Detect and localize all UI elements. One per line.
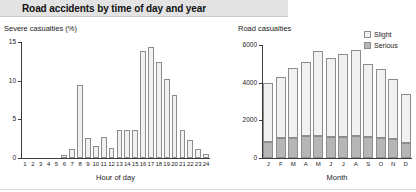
right-y-tick-label: 0	[234, 154, 257, 161]
bar-segment-slight	[301, 62, 311, 136]
bar-segment-slight	[401, 94, 411, 143]
bar-segment-slight	[276, 77, 286, 138]
right-x-tick-label: J	[337, 161, 350, 167]
right-x-tick-label: J	[325, 161, 338, 167]
bar-segment-slight	[376, 69, 386, 138]
left-y-tick	[18, 42, 21, 43]
right-chart-title: Road casualties	[238, 24, 291, 33]
bar-segment-serious	[263, 142, 273, 158]
left-y-tick	[18, 119, 21, 120]
bar-severe-casualties	[180, 130, 186, 158]
bar-severe-casualties	[156, 62, 162, 158]
bar-segment-serious	[313, 136, 323, 158]
bar-segment-slight	[351, 50, 361, 136]
bar-severe-casualties	[148, 47, 154, 158]
legend-item-serious: Serious	[364, 42, 398, 49]
right-y-tick	[259, 45, 262, 46]
left-y-tick-label: 15	[0, 38, 16, 45]
bar-severe-casualties	[140, 51, 146, 158]
left-x-tick-label: 24	[200, 161, 212, 167]
right-x-tick-label: N	[387, 161, 400, 167]
bar-segment-serious	[326, 137, 336, 158]
right-x-tick-label: O	[375, 161, 388, 167]
bar-severe-casualties	[61, 155, 67, 158]
legend-label-slight: Slight	[374, 31, 392, 38]
left-chart-title: Severe casualties (%)	[4, 24, 77, 33]
bar-severe-casualties	[132, 130, 138, 158]
bar-segment-slight	[313, 51, 323, 136]
bar-severe-casualties	[117, 130, 123, 158]
left-y-tick-label: 10	[0, 77, 16, 84]
bar-segment-slight	[363, 64, 373, 137]
bar-severe-casualties	[101, 137, 107, 158]
bar-segment-slight	[326, 58, 336, 137]
left-x-axis-caption: Hour of day	[21, 173, 210, 182]
right-x-tick-label: D	[400, 161, 413, 167]
footer-divider	[0, 189, 416, 190]
right-y-tick	[259, 158, 262, 159]
bar-severe-casualties	[109, 148, 115, 158]
right-y-tick	[259, 120, 262, 121]
left-y-tick	[18, 81, 21, 82]
bar-segment-serious	[276, 138, 286, 158]
bar-segment-serious	[376, 138, 386, 158]
bar-severe-casualties	[164, 79, 170, 158]
bar-severe-casualties	[124, 130, 130, 158]
right-y-tick-label: 2000	[234, 116, 257, 123]
bar-segment-serious	[388, 139, 398, 158]
legend-swatch-serious	[364, 42, 371, 49]
page-title: Road accidents by time of day and year	[22, 3, 206, 14]
bar-segment-slight	[288, 68, 298, 138]
bar-severe-casualties	[195, 149, 201, 158]
left-y-tick	[18, 158, 21, 159]
bar-segment-slight	[388, 79, 398, 139]
bar-severe-casualties	[77, 85, 83, 158]
bar-segment-slight	[263, 83, 273, 143]
right-x-tick-label: M	[287, 161, 300, 167]
bar-segment-serious	[301, 136, 311, 158]
left-y-tick-label: 5	[0, 115, 16, 122]
bar-severe-casualties	[69, 149, 75, 158]
right-y-tick-label: 4000	[234, 79, 257, 86]
bar-severe-casualties	[172, 95, 178, 158]
legend-swatch-slight	[364, 31, 371, 38]
right-x-tick-label: J	[262, 161, 275, 167]
right-x-tick-label: S	[362, 161, 375, 167]
right-x-tick-label: A	[300, 161, 313, 167]
right-x-tick-label: M	[312, 161, 325, 167]
right-y-tick	[259, 83, 262, 84]
bar-severe-casualties	[93, 146, 99, 158]
left-x-axis	[21, 158, 210, 159]
bar-segment-slight	[338, 54, 348, 137]
bar-severe-casualties	[85, 138, 91, 158]
legend-label-serious: Serious	[374, 42, 398, 49]
bar-segment-serious	[338, 137, 348, 158]
right-x-tick-label: F	[275, 161, 288, 167]
right-x-axis-caption: Month	[262, 173, 412, 182]
bar-segment-serious	[288, 138, 298, 158]
right-y-tick-label: 6000	[234, 41, 257, 48]
left-y-tick-label: 0	[0, 154, 16, 161]
bar-segment-serious	[363, 137, 373, 158]
bar-segment-serious	[351, 136, 361, 158]
bar-severe-casualties	[187, 140, 193, 158]
left-y-axis	[21, 42, 22, 159]
bar-severe-casualties	[203, 154, 209, 158]
right-x-tick-label: A	[350, 161, 363, 167]
legend-item-slight: Slight	[364, 31, 392, 38]
bar-segment-serious	[401, 143, 411, 158]
right-x-axis	[262, 158, 412, 159]
